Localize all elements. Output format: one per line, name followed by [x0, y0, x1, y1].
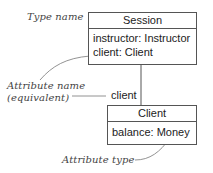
annotation-type-name: Type name — [27, 11, 84, 22]
class-title-session: Session — [89, 13, 196, 29]
class-title-client: Client — [108, 106, 196, 122]
class-box-client: Client balance: Money — [107, 105, 197, 145]
attribute-instructor: instructor: Instructor — [89, 31, 196, 45]
attribute-balance: balance: Money — [108, 125, 196, 139]
annotation-equivalent: (equivalent) — [7, 92, 69, 103]
leader-attribute-name — [40, 56, 90, 80]
attribute-client: client: Client — [89, 45, 196, 59]
class-box-session: Session instructor: Instructor client: C… — [88, 12, 197, 65]
role-name-client: client — [111, 89, 137, 101]
annotation-attribute-type: Attribute type — [62, 154, 134, 165]
annotation-attribute-name: Attribute name — [7, 80, 85, 91]
